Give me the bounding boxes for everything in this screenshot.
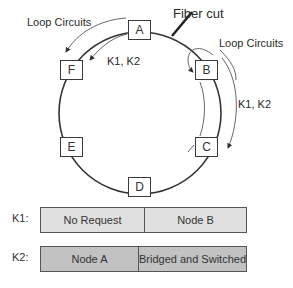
k1-byte-bar: No Request Node B [40,207,247,233]
k1k2-label-right: K1, K2 [238,98,271,110]
k2-status-cell: Bridged and Switched [139,247,246,271]
node-a: A [128,20,151,40]
k1-request-cell: No Request [41,208,145,232]
loop-circuits-label-right: Loop Circuits [219,37,283,49]
node-c: C [195,137,218,157]
k1k2-arrow-right [222,58,236,148]
node-b: B [195,60,218,80]
node-e: E [60,137,83,157]
node-d: D [128,177,151,197]
k2-label: K2: [12,251,29,263]
node-f: F [60,60,83,80]
b-to-c-loop-line [200,82,205,136]
c-tick [188,145,194,152]
loop-circuits-label-left: Loop Circuits [27,16,91,28]
k2-byte-bar: Node A Bridged and Switched [40,246,247,272]
k2-source-cell: Node A [41,247,139,271]
k1-destination-cell: Node B [145,208,246,232]
outer-loop-line-b [220,50,236,80]
k1-label: K1: [12,212,29,224]
k1k2-label-left: K1, K2 [107,55,140,67]
fiber-cut-label: Fiber cut [173,6,224,21]
